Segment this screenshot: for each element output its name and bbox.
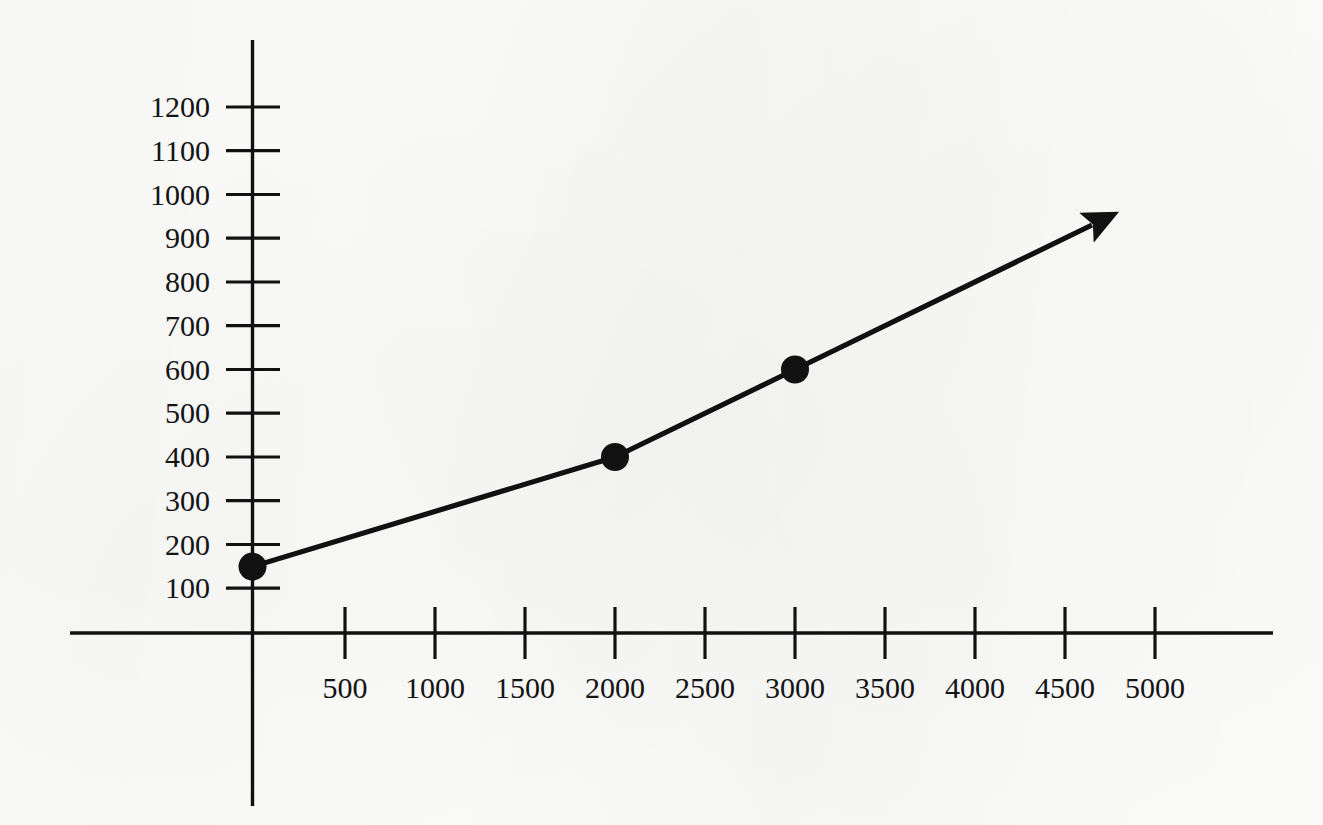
x-axis-tick-label-1500: 1500: [495, 673, 555, 703]
line-chart-figure: 1200 1100 1000 900 800 700 600 500 400 3…: [0, 0, 1323, 825]
y-axis-tick-label-1000: 1000: [60, 180, 210, 210]
y-axis-tick-label-800: 800: [60, 267, 210, 297]
y-axis-tick-label-600: 600: [60, 355, 210, 385]
y-axis-tick-label-200: 200: [60, 530, 210, 560]
y-axis-tick-label-100: 100: [60, 573, 210, 603]
y-axis-tick-label-700: 700: [60, 311, 210, 341]
x-axis-tick-label-2000: 2000: [585, 673, 645, 703]
data-point-3000-600: [781, 356, 809, 384]
data-point-2000-400: [601, 443, 629, 471]
x-axis-tick-label-2500: 2500: [675, 673, 735, 703]
x-axis-tick-label-4000: 4000: [945, 673, 1005, 703]
y-axis-tick-label-1200: 1200: [60, 92, 210, 122]
x-axis-tick-label-3000: 3000: [765, 673, 825, 703]
x-axis-tick-label-4500: 4500: [1035, 673, 1095, 703]
x-axis-tick-label-5000: 5000: [1125, 673, 1185, 703]
y-axis-tick-label-900: 900: [60, 223, 210, 253]
data-line-trend: [253, 225, 1093, 567]
y-axis-tick-label-500: 500: [60, 398, 210, 428]
data-point-0-150: [239, 553, 267, 581]
x-axis-tick-label-500: 500: [323, 673, 368, 703]
y-axis-tick-label-1100: 1100: [60, 136, 210, 166]
y-axis-tick-label-400: 400: [60, 442, 210, 472]
y-axis-tick-label-300: 300: [60, 486, 210, 516]
x-axis-tick-label-3500: 3500: [855, 673, 915, 703]
x-axis-tick-label-1000: 1000: [405, 673, 465, 703]
